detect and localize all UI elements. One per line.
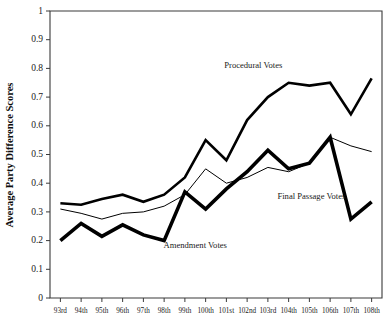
y-tick-label: 0.1 — [31, 264, 43, 274]
x-tick-label: 95th — [95, 307, 108, 315]
x-tick-label: 102nd — [238, 307, 256, 315]
y-tick-label: 0.3 — [31, 207, 43, 217]
x-tick-label: 106th — [322, 307, 339, 315]
x-tick-label: 100th — [197, 307, 214, 315]
annotation-procedural-votes: Procedural Votes — [224, 60, 283, 70]
x-tick-label: 94th — [75, 307, 88, 315]
x-tick-label: 93rd — [54, 307, 68, 315]
y-tick-label: 0.7 — [31, 92, 43, 102]
x-tick-label: 107th — [343, 307, 360, 315]
x-tick-label: 104th — [280, 307, 297, 315]
x-tick-label: 105th — [301, 307, 318, 315]
x-tick-label: 103rd — [259, 307, 276, 315]
x-tick-label: 108th — [363, 307, 380, 315]
annotation-final-passage-votes: Final Passage Votes — [277, 191, 346, 201]
y-axis-title: Average Party Difference Scores — [4, 83, 15, 228]
annotation-amendment-votes: Amendment Votes — [164, 240, 228, 250]
y-tick-label: 0.9 — [31, 34, 43, 44]
x-tick-label: 97th — [137, 307, 150, 315]
x-tick-label: 96th — [116, 307, 129, 315]
y-tick-label: 0.2 — [31, 235, 43, 245]
chart-background — [0, 0, 392, 330]
y-tick-label: 0.8 — [31, 63, 43, 73]
y-tick-label: 0.5 — [31, 149, 43, 159]
x-tick-label: 98th — [158, 307, 171, 315]
x-tick-label: 99th — [178, 307, 191, 315]
chart-container: 00.10.20.30.40.50.60.70.80.91 93rd94th95… — [0, 0, 392, 330]
y-tick-label: 1 — [38, 6, 43, 16]
y-tick-label: 0.6 — [31, 120, 43, 130]
party-difference-line-chart: 00.10.20.30.40.50.60.70.80.91 93rd94th95… — [0, 0, 392, 330]
y-tick-label: 0 — [38, 293, 43, 303]
x-tick-label: 101st — [219, 307, 235, 315]
y-tick-label: 0.4 — [31, 178, 43, 188]
